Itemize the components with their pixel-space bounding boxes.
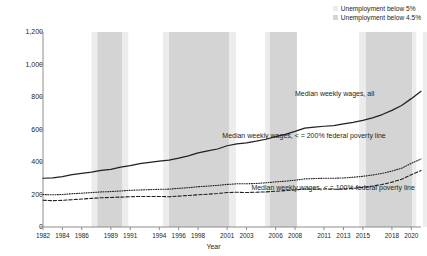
- x-tick-label: 2001: [220, 232, 234, 239]
- x-tick-label: 2018: [385, 232, 399, 239]
- x-tick-label: 1982: [36, 232, 50, 239]
- x-tick-label: 1998: [191, 232, 205, 239]
- annotation-all: Median weekly wages, all: [295, 90, 374, 97]
- plot-area: [0, 0, 427, 256]
- shaded-band: [270, 32, 297, 227]
- x-tick-label: 2011: [317, 232, 331, 239]
- x-tick-label: 1994: [152, 232, 166, 239]
- x-tick-label: 2015: [356, 232, 370, 239]
- shaded-band: [412, 32, 416, 227]
- x-tick-label: 1991: [123, 232, 137, 239]
- shaded-band: [122, 32, 128, 227]
- x-axis-title: Year: [0, 243, 427, 250]
- annotation-200-fpl: Median weekly wages, < = 200% federal po…: [222, 132, 385, 139]
- shaded-band: [423, 32, 427, 227]
- x-tick-label: 2003: [239, 232, 253, 239]
- x-tick-label: 2008: [288, 232, 302, 239]
- x-tick-label: 2006: [269, 232, 283, 239]
- shaded-band: [163, 32, 169, 227]
- x-tick-label: 1984: [55, 232, 69, 239]
- x-tick-label: 2020: [404, 232, 418, 239]
- x-tick-label: 1996: [172, 232, 186, 239]
- x-tick-label: 1986: [75, 232, 89, 239]
- annotation-100-fpl: Median weekly wages, < = 100% federal po…: [251, 184, 414, 191]
- shaded-band: [229, 32, 236, 227]
- shaded-band: [169, 32, 229, 227]
- shaded-band: [366, 32, 413, 227]
- x-tick-label: 2013: [336, 232, 350, 239]
- chart-container: Unemployment below 5% Unemployment below…: [0, 0, 427, 256]
- shaded-band: [359, 32, 366, 227]
- x-tick-label: 1989: [104, 232, 118, 239]
- shaded-band: [265, 32, 270, 227]
